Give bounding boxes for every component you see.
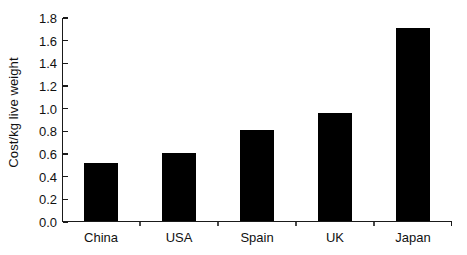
plot-area: 0.00.20.40.60.81.01.21.41.61.8 [62,18,452,222]
x-axis-category-labels: ChinaUSASpainUKJapan [62,230,452,250]
y-axis-tick [63,131,68,132]
y-axis-tick-label: 0.2 [39,193,57,206]
y-axis-title: Cost/kg live weight [0,0,26,225]
y-axis-tick [63,108,68,109]
y-axis-tick [63,153,68,154]
bar-spain [240,130,274,221]
y-axis-tick-label: 0.8 [39,125,57,138]
x-axis-tick [217,222,218,226]
y-axis-tick-label: 1.4 [39,57,57,70]
x-axis-label-japan: Japan [374,230,452,250]
y-axis-title-text: Cost/kg live weight [6,57,21,167]
bar-chart-figure: Cost/kg live weight 0.00.20.40.60.81.01.… [0,0,467,255]
bar-china [84,163,118,221]
y-axis-tick [63,221,68,222]
x-axis-end-tick [451,222,452,226]
y-axis-tick-label: 0.4 [39,170,57,183]
x-axis-label-spain: Spain [218,230,296,250]
x-axis-line [62,221,452,222]
y-axis-tick [63,63,68,64]
bar-uk [318,113,352,221]
y-axis-tick [63,17,68,18]
y-axis-tick-label: 1.6 [39,34,57,47]
y-axis-tick [63,85,68,86]
y-axis-tick [63,176,68,177]
x-axis-label-uk: UK [296,230,374,250]
y-axis-tick-label: 1.2 [39,80,57,93]
y-axis-tick-label: 1.8 [39,12,57,25]
x-axis-tick [139,222,140,226]
y-axis-line [62,18,63,222]
y-axis-tick-label: 1.0 [39,102,57,115]
y-axis-tick [63,40,68,41]
x-axis-label-china: China [62,230,140,250]
x-axis-label-usa: USA [140,230,218,250]
bar-japan [396,28,430,221]
y-axis-tick-label: 0.6 [39,148,57,161]
y-axis-tick [63,199,68,200]
x-axis-tick [295,222,296,226]
y-axis-tick-label: 0.0 [39,216,57,229]
x-axis-tick [373,222,374,226]
bar-usa [162,153,196,221]
